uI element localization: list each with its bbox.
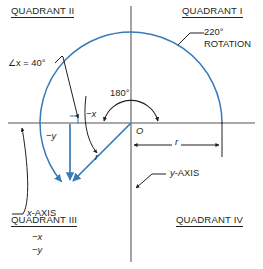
quadrant3-neg-y: −y (32, 245, 42, 256)
x-axis-callout-leader (12, 128, 28, 214)
rotation-leader-line (178, 33, 204, 45)
reference-angle-label: ∠x = 40° (8, 58, 46, 69)
quadrant3-neg-x: −x (32, 232, 42, 243)
y-axis-callout-leader (136, 174, 166, 188)
y-axis-label: y-AXIS (170, 168, 199, 179)
quadrant-label-1: QUADRANT I (182, 6, 243, 18)
rotation-angle-diagram: QUADRANT II QUADRANT I QUADRANT III QUAD… (0, 0, 263, 269)
quadrant-label-4: QUADRANT IV (176, 215, 243, 227)
x-axis-label: x-AXIS (27, 208, 56, 219)
origin-label: O (136, 126, 143, 137)
quadrant-label-2: QUADRANT II (11, 6, 74, 18)
neg-x-component-leader (85, 96, 97, 153)
straight-angle-label: 180° (110, 88, 129, 99)
rotation-value-label: 220° (204, 27, 223, 38)
radius-ray-label: r (95, 152, 98, 163)
reference-angle-leader (55, 56, 78, 118)
radius-dimension-label: r (172, 137, 181, 148)
neg-y-component-label: −y (46, 131, 56, 142)
terminal-side-ray (73, 123, 131, 181)
neg-x-component-label: −x (86, 109, 96, 120)
rotation-word-label: ROTATION (204, 39, 251, 50)
